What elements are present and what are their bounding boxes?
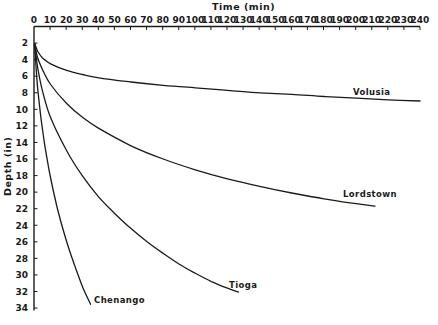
y-tick-label: 12 xyxy=(15,121,28,131)
x-tick-label: 80 xyxy=(156,15,169,25)
y-tick-label: 10 xyxy=(15,105,28,115)
x-tick-label: 40 xyxy=(92,15,105,25)
y-tick-label: 14 xyxy=(15,138,28,148)
y-tick-label: 20 xyxy=(15,187,28,197)
x-tick-label: 240 xyxy=(411,15,430,25)
curve-lordstown xyxy=(35,43,376,206)
y-tick-label: 6 xyxy=(22,71,28,81)
y-tick-label: 32 xyxy=(15,287,28,297)
y-tick-label: 4 xyxy=(22,55,28,65)
x-axis: 0102030405060708090100110120130140150160… xyxy=(31,15,430,30)
x-tick-label: 30 xyxy=(76,15,89,25)
x-tick-label: 90 xyxy=(172,15,185,25)
y-tick-label: 30 xyxy=(15,270,28,280)
infiltration-depth-chart: 0102030405060708090100110120130140150160… xyxy=(0,0,438,325)
label-lordstown: Lordstown xyxy=(343,189,397,199)
x-tick-label: 60 xyxy=(124,15,137,25)
x-axis-title: Time (min) xyxy=(212,1,275,12)
y-tick-label: 22 xyxy=(15,204,28,214)
x-tick-label: 10 xyxy=(44,15,57,25)
label-chenango: Chenango xyxy=(94,295,145,305)
y-axis: 246810121416182022242628303234 xyxy=(15,27,37,314)
y-tick-label: 34 xyxy=(15,303,28,313)
curve-chenango xyxy=(35,43,91,305)
y-tick-label: 2 xyxy=(22,38,28,48)
label-volusia: Volusia xyxy=(353,87,390,97)
y-tick-label: 26 xyxy=(15,237,28,247)
x-tick-label: 0 xyxy=(31,15,37,25)
x-tick-label: 20 xyxy=(60,15,73,25)
label-tioga: Tioga xyxy=(229,280,257,290)
y-tick-label: 28 xyxy=(15,254,28,264)
y-tick-label: 16 xyxy=(15,154,28,164)
curves xyxy=(35,43,421,305)
y-axis-title: Depth (in) xyxy=(2,137,13,196)
y-tick-label: 8 xyxy=(22,88,28,98)
curve-tioga xyxy=(35,43,239,292)
y-tick-label: 18 xyxy=(15,171,28,181)
x-tick-label: 50 xyxy=(108,15,121,25)
x-tick-label: 70 xyxy=(140,15,153,25)
y-tick-label: 24 xyxy=(15,221,28,231)
